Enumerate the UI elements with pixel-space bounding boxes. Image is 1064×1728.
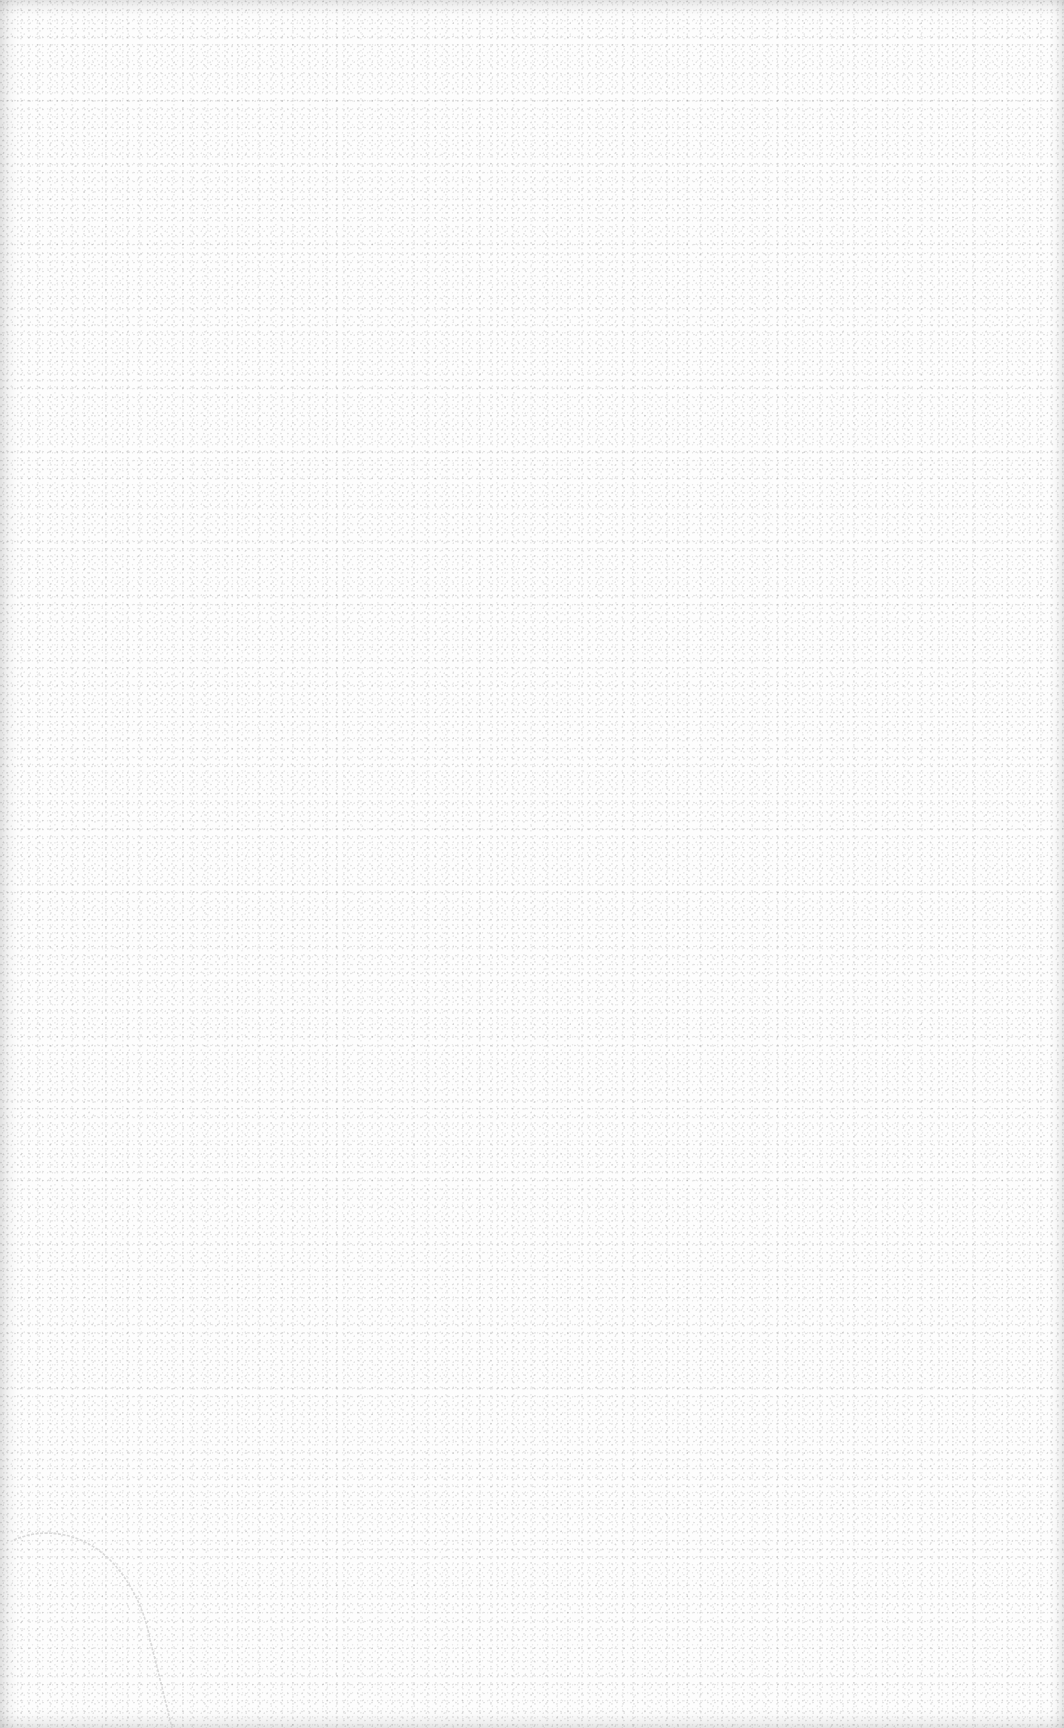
paper-crease-mark (0, 1520, 200, 1728)
blank-paper-page (0, 0, 1064, 1728)
paper-edge-shadow (0, 0, 1064, 1728)
